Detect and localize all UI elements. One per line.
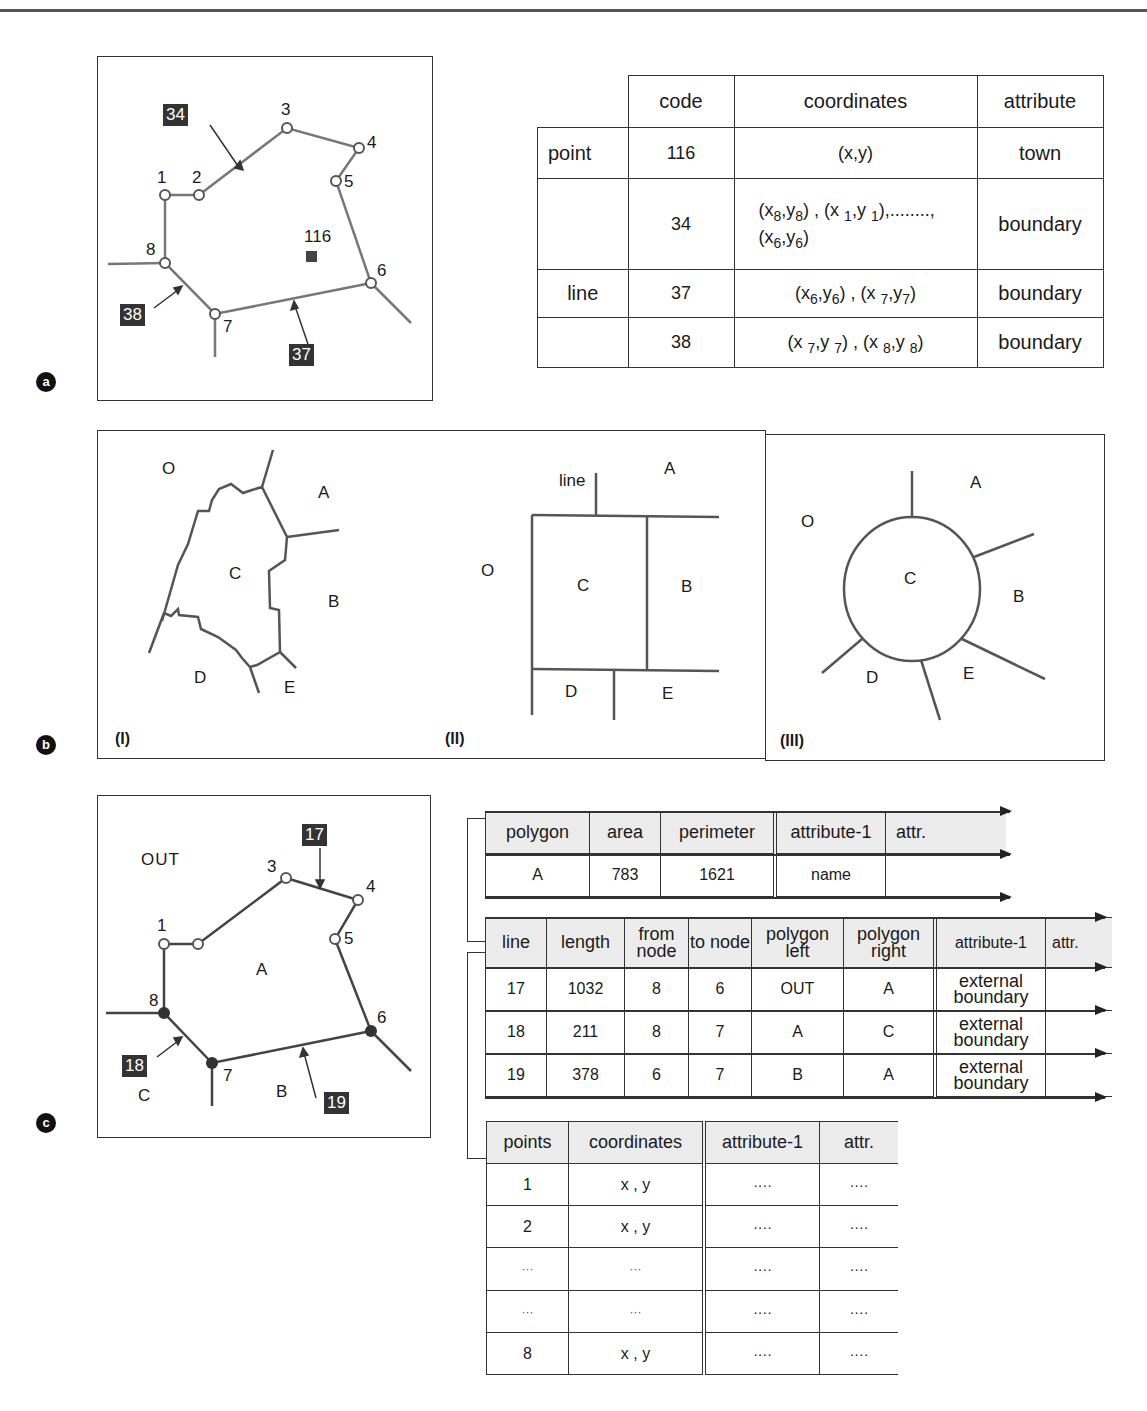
- table-cell: external boundary: [935, 1011, 1046, 1054]
- table-cell: ····: [704, 1164, 820, 1206]
- region-label: C: [577, 576, 589, 596]
- table-cell: external boundary: [935, 968, 1046, 1011]
- circular-polygon-diagram: [766, 435, 1106, 762]
- table-cell: ····: [820, 1248, 899, 1291]
- table-row: 17 1032 8 6 OUT A external boundary: [486, 968, 1113, 1011]
- attribute-cell: town: [977, 128, 1103, 179]
- table-cell: ····: [820, 1164, 899, 1206]
- panel-label-b: b: [36, 735, 56, 755]
- table-cell: x , y: [569, 1206, 705, 1248]
- region-label: B: [681, 577, 692, 597]
- table-row: 8 x , y ···· ····: [487, 1333, 899, 1375]
- region-label: A: [318, 483, 329, 503]
- table-header: attribute-1: [704, 1122, 820, 1164]
- node-label: 3: [267, 857, 276, 877]
- node-label: 5: [344, 172, 353, 192]
- arrow-continuation: [485, 854, 1010, 856]
- table-cell: OUT: [752, 968, 844, 1011]
- table-cell: 378: [547, 1054, 625, 1097]
- table-header-row: points coordinates attribute-1 attr.: [487, 1122, 899, 1164]
- table-cell: A: [844, 968, 936, 1011]
- table-cell: ····: [704, 1206, 820, 1248]
- type-cell: [538, 179, 629, 270]
- type-cell: point: [538, 128, 629, 179]
- region-label: D: [866, 668, 878, 688]
- attribute-cell: boundary: [977, 318, 1103, 368]
- section-b-panel-III: A O C B D E (III): [765, 434, 1105, 761]
- table-cell: B: [752, 1054, 844, 1097]
- table-cell: ····: [820, 1291, 899, 1333]
- panel-roman-label: (III): [780, 732, 804, 750]
- node-label: 7: [223, 317, 232, 337]
- region-label: O: [162, 459, 175, 479]
- arrow-continuation: [485, 811, 1010, 813]
- table-cell: ···: [487, 1291, 569, 1333]
- region-label: E: [963, 664, 974, 684]
- node-label: 7: [223, 1066, 232, 1086]
- table-cell: [1046, 1054, 1113, 1097]
- code-cell: 38: [628, 318, 734, 368]
- line-tag: 37: [289, 344, 314, 366]
- table-header: points: [487, 1122, 569, 1164]
- table-cell: ····: [704, 1333, 820, 1375]
- table-cell: name: [775, 854, 886, 897]
- table-header: attribute: [977, 76, 1103, 128]
- node-label: 8: [149, 991, 158, 1011]
- table-cell: 1: [487, 1164, 569, 1206]
- attribute-cell: boundary: [977, 270, 1103, 318]
- rectangular-polygon-diagram: [431, 431, 766, 760]
- node-label: 3: [281, 100, 290, 120]
- table-row: 2 x , y ···· ····: [487, 1206, 899, 1248]
- table-cell: A: [752, 1011, 844, 1054]
- node-label: 4: [366, 877, 375, 897]
- table-cell: x , y: [569, 1333, 705, 1375]
- node-label: 5: [344, 929, 353, 949]
- type-cell: [538, 318, 629, 368]
- page-top-rule: [0, 9, 1147, 12]
- table-row: 18 211 8 7 A C external boundary: [486, 1011, 1113, 1054]
- arrow-continuation: [485, 1010, 1105, 1012]
- table-row: 1 x , y ···· ····: [487, 1164, 899, 1206]
- section-b-panel-I: O A C B D E (I): [97, 430, 432, 759]
- section-b-panel-II: line A O C B D E (II): [431, 430, 766, 759]
- table-header: line: [486, 918, 547, 968]
- node-label: 2: [192, 168, 201, 188]
- region-label: D: [565, 682, 577, 702]
- table-header: code: [628, 76, 734, 128]
- region-label: A: [970, 473, 981, 493]
- table-cell: ····: [820, 1206, 899, 1248]
- line-tag: 19: [324, 1092, 349, 1114]
- region-label: B: [328, 592, 339, 612]
- table-header: polygon: [486, 812, 590, 854]
- arrow-continuation: [485, 967, 1105, 969]
- table-cell: ····: [704, 1291, 820, 1333]
- arrow-continuation: [485, 1053, 1105, 1055]
- table-header: polygon left: [752, 918, 844, 968]
- node-7-filled: [206, 1057, 218, 1069]
- code-cell: 34: [628, 179, 734, 270]
- connector-line-points: [467, 952, 486, 1159]
- panel-roman-label: (I): [115, 730, 130, 748]
- table-cell: ····: [820, 1333, 899, 1375]
- table-cell: C: [844, 1011, 936, 1054]
- region-label: C: [229, 564, 241, 584]
- panel-label-a: a: [36, 372, 56, 392]
- type-cell: line: [538, 270, 629, 318]
- table-header-row: code coordinates attribute: [538, 76, 1104, 128]
- region-label: B: [276, 1082, 287, 1102]
- table-header: area: [590, 812, 661, 854]
- table-cell: ···: [569, 1291, 705, 1333]
- code-cell: 37: [628, 270, 734, 318]
- coordinates-cell: (x,y): [734, 128, 977, 179]
- table-cell: 19: [486, 1054, 547, 1097]
- region-label: E: [662, 684, 673, 704]
- point-code-label: 116: [304, 227, 331, 247]
- table-header: attribute-1: [935, 918, 1046, 968]
- coordinates-cell: (x 7,y 7) , (x 8,y 8): [734, 318, 977, 368]
- panel-roman-label: (II): [445, 730, 465, 748]
- table-cell: 1621: [661, 854, 776, 897]
- region-label: O: [801, 512, 814, 532]
- outside-label: OUT: [141, 850, 180, 870]
- region-label: C: [138, 1086, 150, 1106]
- table-cell: A: [486, 854, 590, 897]
